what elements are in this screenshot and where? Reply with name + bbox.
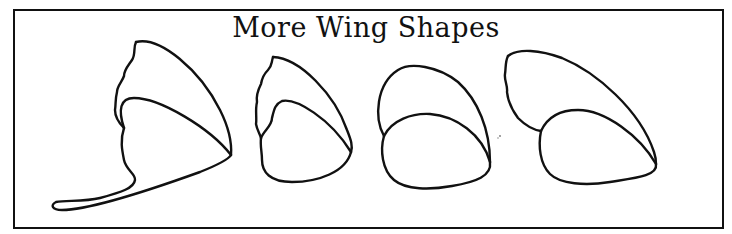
- wing-shape-1: [53, 41, 232, 210]
- wing-shapes-canvas: [0, 0, 732, 234]
- wing-shape-4: [505, 51, 656, 184]
- wing-shape-3: [378, 66, 490, 188]
- wing-shape-2: [256, 57, 352, 182]
- scan-speck: [499, 135, 501, 137]
- scan-speck: [497, 137, 498, 138]
